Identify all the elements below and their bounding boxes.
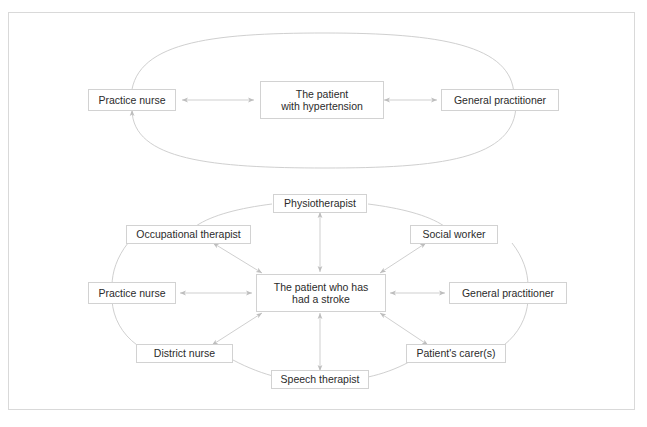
node-top-general-practitioner[interactable]: General practitioner (441, 89, 559, 111)
node-patients-carers[interactable]: Patient's carer(s) (406, 344, 506, 363)
node-label: Practice nurse (95, 287, 169, 300)
node-label: Patient's carer(s) (413, 347, 499, 360)
node-label-line2: had a stroke (263, 293, 379, 306)
node-bottom-practice-nurse[interactable]: Practice nurse (88, 282, 176, 304)
figure-canvas: Practice nurse The patient with hyperten… (0, 0, 647, 427)
node-district-nurse[interactable]: District nurse (136, 344, 233, 363)
node-label: Occupational therapist (133, 228, 244, 241)
connector-layer (0, 0, 647, 427)
node-occupational-therapist[interactable]: Occupational therapist (126, 225, 251, 244)
node-label: General practitioner (456, 287, 560, 300)
node-speech-therapist[interactable]: Speech therapist (271, 370, 369, 389)
node-label-line1: The patient (267, 88, 377, 101)
node-label: Practice nurse (95, 94, 169, 107)
node-label: Social worker (417, 228, 491, 241)
node-label: General practitioner (448, 94, 552, 107)
node-social-worker[interactable]: Social worker (410, 225, 498, 244)
node-label: District nurse (143, 347, 226, 360)
node-label-line2: with hypertension (267, 100, 377, 113)
node-physiotherapist[interactable]: Physiotherapist (273, 194, 367, 213)
node-label: Speech therapist (278, 373, 362, 386)
node-label-line1: The patient who has (263, 281, 379, 294)
node-patient-stroke[interactable]: The patient who has had a stroke (256, 274, 386, 312)
node-bottom-general-practitioner[interactable]: General practitioner (449, 282, 567, 304)
node-top-patient-hypertension[interactable]: The patient with hypertension (260, 81, 384, 119)
node-label: Physiotherapist (280, 197, 360, 210)
node-top-practice-nurse[interactable]: Practice nurse (88, 89, 176, 111)
